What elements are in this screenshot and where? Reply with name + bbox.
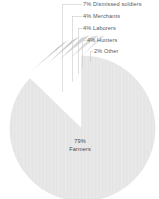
center-label-name: Farmers: [56, 146, 104, 154]
pie-chart-figure: 7% Dismissed soldiers 4% Merchants 4% La…: [0, 0, 159, 199]
center-label-percent: 79%: [56, 138, 104, 146]
center-label-farmers: 79% Farmers: [56, 138, 104, 153]
callout-label-hunters: 4% Hunters: [87, 37, 117, 44]
pie-chart-graphic: [0, 0, 159, 199]
pie-slice-farmers: [10, 56, 155, 199]
pie-slice-merchants: [46, 36, 81, 65]
callout-label-dismissed-soldiers: 7% Dismissed soldiers: [83, 1, 142, 8]
callout-label-laborers: 4% Laborers: [83, 25, 116, 32]
callout-label-other: 2% Other: [94, 48, 119, 55]
callout-label-merchants: 4% Merchants: [83, 13, 120, 20]
